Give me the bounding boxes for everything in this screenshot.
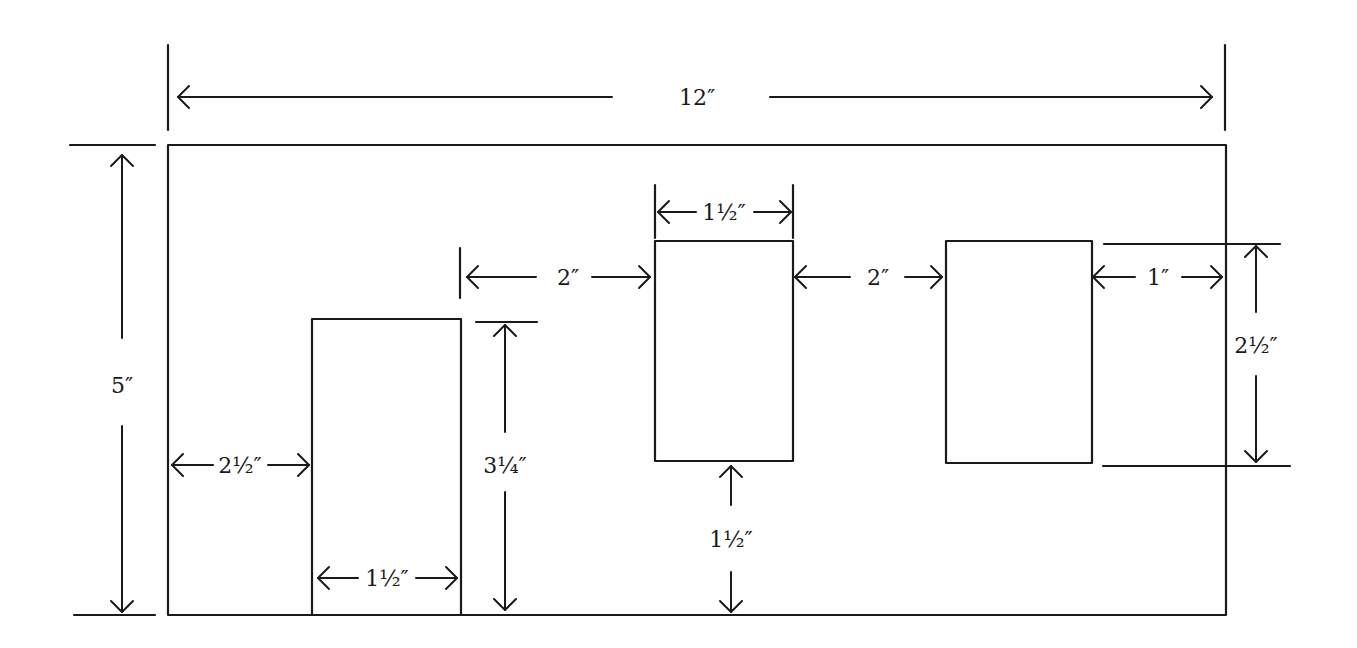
extension-lines [70, 45, 1290, 615]
openings [312, 241, 1092, 615]
label-left-opening-width: 1½″ [365, 566, 409, 591]
label-gap-left-center: 2″ [557, 265, 579, 290]
label-center-bottom-margin: 1½″ [709, 527, 753, 552]
label-left-opening-height: 3¼″ [483, 453, 527, 478]
dimension-lines [111, 86, 1267, 612]
opening-center [655, 241, 793, 461]
label-right-opening-height: 2½″ [1234, 333, 1278, 358]
label-gap-center-right: 2″ [867, 265, 889, 290]
label-right-margin: 1″ [1147, 265, 1169, 290]
dimension-labels: 12″ 5″ 2½″ 1½″ 3¼″ 2″ 1½″ 1½″ 2″ 1″ 2½″ [111, 85, 1278, 591]
label-center-opening-width: 1½″ [702, 200, 746, 225]
opening-right [946, 241, 1092, 463]
label-overall-width: 12″ [679, 85, 715, 110]
dimension-diagram: 12″ 5″ 2½″ 1½″ 3¼″ 2″ 1½″ 1½″ 2″ 1″ 2½″ [0, 0, 1357, 648]
label-overall-height: 5″ [111, 373, 133, 398]
label-left-margin: 2½″ [218, 453, 262, 478]
wall-outline [168, 145, 1226, 615]
